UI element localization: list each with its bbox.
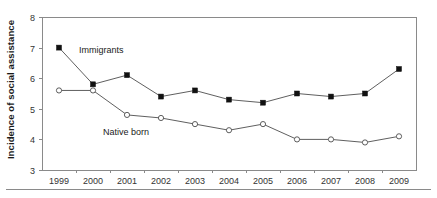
data-point-marker: [362, 140, 367, 145]
x-tick-label: 2004: [219, 176, 239, 186]
y-axis-ticks: 345678: [30, 13, 42, 176]
data-point-marker: [57, 45, 62, 50]
data-point-marker: [193, 88, 198, 93]
y-tick-label: 3: [30, 166, 35, 176]
footer-divider: [6, 189, 431, 190]
x-tick-label: 1999: [49, 176, 69, 186]
x-tick-label: 2000: [83, 176, 103, 186]
y-tick-label: 4: [30, 135, 35, 145]
x-tick-label: 2001: [117, 176, 137, 186]
data-point-marker: [125, 73, 130, 78]
data-point-marker: [90, 88, 95, 93]
x-tick-label: 2005: [253, 176, 273, 186]
data-point-marker: [396, 134, 401, 139]
x-tick-label: 2003: [185, 176, 205, 186]
x-tick-label: 2006: [287, 176, 307, 186]
data-point-marker: [329, 94, 334, 99]
x-tick-label: 2008: [355, 176, 375, 186]
chart-figure: Incidence of social assistance 345678 19…: [0, 0, 437, 198]
x-tick-label: 2009: [389, 176, 409, 186]
data-point-marker: [328, 137, 333, 142]
data-point-marker: [158, 115, 163, 120]
data-point-marker: [261, 100, 266, 105]
x-tick-label: 2002: [151, 176, 171, 186]
data-point-marker: [260, 122, 265, 127]
data-point-marker: [295, 91, 300, 96]
data-point-marker: [159, 94, 164, 99]
data-point-marker: [192, 122, 197, 127]
annotation-native-born: Native born: [103, 127, 149, 137]
line-chart-plot: 345678 199920002001200220032004200520062…: [0, 0, 437, 198]
annotation-immigrants: Immigrants: [79, 45, 124, 55]
y-tick-label: 6: [30, 74, 35, 84]
x-axis-ticks: 1999200020012002200320042005200620072008…: [49, 170, 409, 186]
series-annotations: ImmigrantsNative born: [79, 45, 149, 138]
data-point-marker: [91, 82, 96, 87]
y-tick-label: 5: [30, 105, 35, 115]
data-point-marker: [56, 88, 61, 93]
data-point-marker: [363, 91, 368, 96]
y-tick-label: 7: [30, 44, 35, 54]
series-line: [59, 48, 399, 103]
data-point-marker: [226, 128, 231, 133]
data-point-marker: [124, 112, 129, 117]
data-point-marker: [227, 97, 232, 102]
x-tick-label: 2007: [321, 176, 341, 186]
data-point-marker: [397, 67, 402, 72]
data-point-marker: [294, 137, 299, 142]
y-tick-label: 8: [30, 13, 35, 23]
